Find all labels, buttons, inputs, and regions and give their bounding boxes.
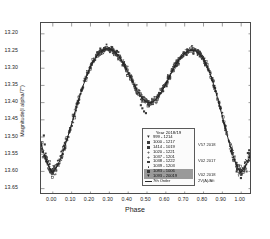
side-annotation: 2V(A)/Afi (198, 178, 214, 183)
y-tick-label: 13.55 (5, 150, 18, 156)
y-tick-label: 13.30 (5, 64, 18, 70)
legend-item-label: 7th Order (153, 179, 170, 184)
y-tick-label: 13.45 (5, 115, 18, 121)
x-tick-label: 0.30 (103, 196, 114, 202)
x-tick-label: 0.10 (65, 196, 76, 202)
legend-item[interactable]: 7th Order (144, 179, 193, 184)
x-tick-label: 0.20 (84, 196, 95, 202)
side-annotation: V02 2018 (198, 172, 216, 177)
x-tick-label: 0.80 (197, 196, 208, 202)
x-tick-label: 0.50 (140, 196, 151, 202)
x-tick-label: 0.00 (46, 196, 57, 202)
legend-rows: ▼999 - 12141000 - 12171414 - 1019+1020 -… (144, 135, 193, 184)
x-tick-label: 0.60 (159, 196, 170, 202)
y-tick-label: 13.65 (5, 184, 18, 190)
y-tick-label: 13.20 (5, 29, 18, 35)
y-tick-label: 13.60 (5, 167, 18, 173)
x-tick-label: 0.40 (121, 196, 132, 202)
y-tick-label: 13.40 (5, 98, 18, 104)
side-annotation: V57 2018 (198, 142, 216, 147)
y-tick-label: 13.35 (5, 81, 18, 87)
x-tick-label: 0.70 (178, 196, 189, 202)
y-tick-label: 13.50 (5, 133, 18, 139)
legend-marker-line-icon (144, 179, 153, 184)
y-tick-label: 13.25 (5, 47, 18, 53)
legend[interactable]: Year 2018/19 ▼999 - 12141000 - 12171414 … (142, 128, 195, 186)
y-axis-label: Magnitude(I alpha/7") (19, 46, 25, 176)
figure: 13.2013.2513.3013.3513.4013.4513.5013.55… (0, 0, 270, 239)
x-tick-label: 0.90 (216, 196, 227, 202)
x-axis-label: Phase (0, 206, 270, 213)
x-tick-label: 1.00 (234, 196, 245, 202)
side-annotation: V02 2017 (198, 158, 216, 163)
